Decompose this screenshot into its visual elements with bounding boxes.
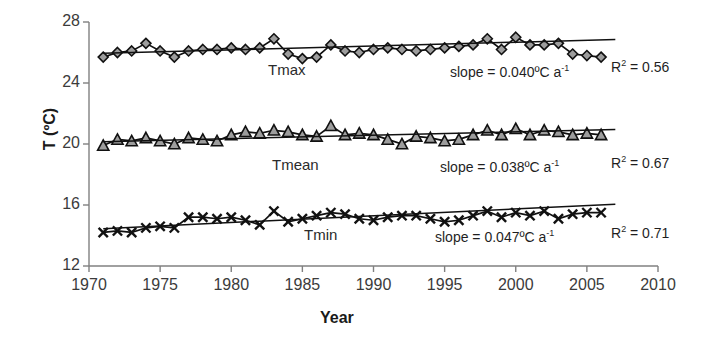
marker-tmean-1998: [482, 125, 493, 135]
marker-tmax-2006: [596, 52, 606, 62]
slope-exponent-tmin: -1: [546, 228, 554, 238]
x-tick-label-1985: 1985: [280, 276, 324, 294]
r2-exponent-tmin: 2: [621, 224, 626, 234]
x-tick-label-2000: 2000: [494, 276, 538, 294]
y-tick-label-28: 28: [40, 12, 80, 30]
marker-tmax-1974: [141, 38, 151, 48]
marker-tmax-1991: [383, 43, 393, 53]
marker-tmax-1997: [468, 40, 478, 50]
marker-tmax-1994: [425, 44, 435, 54]
y-axis-title: T (ºC): [41, 74, 59, 184]
series-label-tmean: Tmean: [272, 156, 319, 173]
slope-annotation-tmax: slope = 0.040ºC a-1: [450, 63, 569, 80]
x-tick-label-1980: 1980: [209, 276, 253, 294]
x-tick-label-1975: 1975: [138, 276, 182, 294]
marker-tmax-1982: [255, 43, 265, 53]
r2-value-tmin: = 0.71: [630, 225, 669, 241]
slope-text-tmax: slope = 0.040ºC a: [450, 64, 561, 80]
marker-tmax-1976: [169, 52, 179, 62]
x-axis-title: Year: [320, 309, 354, 327]
y-tick-label-16: 16: [40, 195, 80, 213]
slope-exponent-tmean: -1: [551, 158, 559, 168]
y-tick-label-12: 12: [40, 256, 80, 274]
r2-annotation-tmin: R2 = 0.71: [611, 224, 669, 241]
series-label-tmax: Tmax: [268, 61, 306, 78]
Tmin-trend: [103, 204, 615, 228]
r2-value-tmean: = 0.67: [630, 155, 669, 171]
r2-annotation-tmean: R2 = 0.67: [611, 154, 669, 171]
r2-symbol-tmin: R: [611, 225, 621, 241]
marker-tmax-1973: [127, 46, 137, 56]
x-tick-label-1995: 1995: [423, 276, 467, 294]
marker-tmax-1980: [226, 43, 236, 53]
series-label-tmin: Tmin: [304, 226, 337, 243]
r2-exponent-tmean: 2: [621, 154, 626, 164]
marker-tmax-1989: [354, 48, 364, 58]
r2-symbol-tmax: R: [611, 59, 621, 75]
x-tick-label-2010: 2010: [636, 276, 680, 294]
marker-tmax-1993: [411, 46, 421, 56]
figure-container: 28 24 20 16 12 1970 1975 1980 1985 1990 …: [0, 0, 709, 343]
x-tick-label-2005: 2005: [565, 276, 609, 294]
marker-tmean-1987: [325, 120, 336, 130]
r2-symbol-tmean: R: [611, 155, 621, 171]
x-tick-label-1990: 1990: [352, 276, 396, 294]
marker-tmax-1978: [198, 44, 208, 54]
x-tick-label-1970: 1970: [67, 276, 111, 294]
slope-text-tmin: slope = 0.047ºC a: [435, 229, 546, 245]
marker-tmax-2005: [582, 51, 592, 61]
slope-annotation-tmean: slope = 0.038ºC a-1: [440, 158, 559, 175]
slope-text-tmean: slope = 0.038ºC a: [440, 159, 551, 175]
r2-exponent-tmax: 2: [621, 58, 626, 68]
series-markers-tmax: [98, 32, 606, 63]
r2-value-tmax: = 0.56: [630, 59, 669, 75]
slope-annotation-tmin: slope = 0.047ºC a-1: [435, 228, 554, 245]
slope-exponent-tmax: -1: [561, 63, 569, 73]
r2-annotation-tmax: R2 = 0.56: [611, 58, 669, 75]
